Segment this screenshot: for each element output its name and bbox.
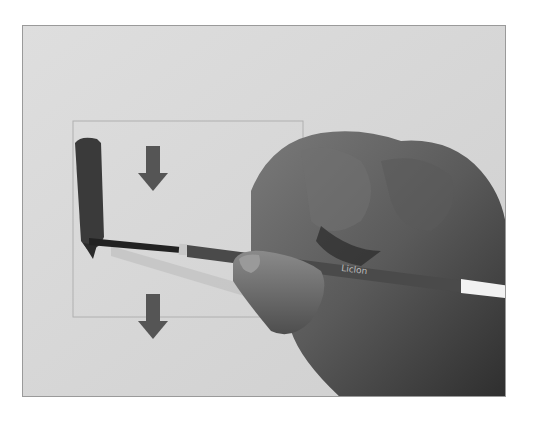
painting-illustration: Liclon <box>23 26 506 397</box>
photo-frame: Liclon Grayscale photo of a hand holding… <box>22 25 506 397</box>
